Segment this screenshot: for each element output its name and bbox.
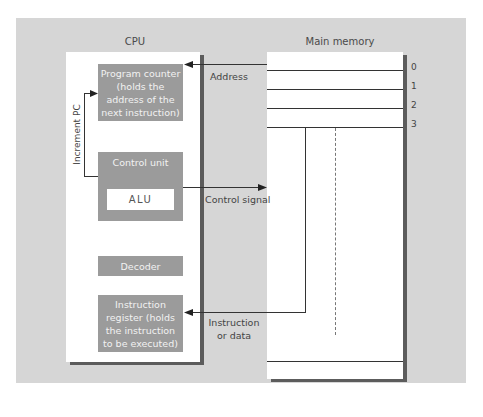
memory-cell-divider [267, 108, 403, 109]
program-counter-line: (holds the [117, 80, 165, 93]
program-counter-box: Program counter (holds the address of th… [98, 64, 183, 121]
memory-cell-divider [267, 89, 403, 90]
alu-label: ALU [129, 194, 153, 205]
address-bus-line [190, 64, 267, 65]
cpu-title: CPU [100, 36, 170, 47]
arrowhead-left-icon [184, 60, 194, 69]
data-bus-line [190, 312, 306, 313]
memory-address-3: 3 [411, 119, 417, 129]
control-unit-box: Control unit [98, 152, 183, 221]
control-unit-label: Control unit [113, 156, 169, 169]
increment-pc-line [84, 93, 85, 176]
memory-cell-divider [267, 70, 403, 71]
instruction-register-line: the instruction [106, 324, 175, 337]
instruction-register-line: register (holds [106, 311, 175, 324]
program-counter-line: next instruction) [101, 106, 179, 119]
instruction-data-line: or data [208, 329, 260, 342]
memory-title: Main memory [290, 36, 390, 47]
program-counter-line: Program counter [101, 67, 181, 80]
instruction-data-label: Instruction or data [208, 316, 260, 342]
control-signal-label: Control signal [205, 193, 270, 206]
arrowhead-left-icon [184, 308, 194, 317]
decoder-box: Decoder [98, 256, 183, 276]
data-bus-line [305, 127, 306, 312]
memory-address-1: 1 [411, 81, 417, 91]
alu-box: ALU [107, 189, 174, 210]
memory-address-2: 2 [411, 100, 417, 110]
memory-address-0: 0 [411, 62, 417, 72]
increment-pc-line [84, 176, 98, 177]
instruction-register-line: to be executed) [103, 337, 178, 350]
program-counter-line: address of the [106, 93, 174, 106]
increment-pc-label: Increment PC [71, 100, 84, 170]
arrowhead-icon [90, 89, 99, 98]
arrowhead-right-icon [258, 183, 268, 192]
control-signal-line [183, 187, 261, 188]
memory-continuation-dashed-line [335, 128, 336, 335]
address-label: Address [210, 70, 248, 83]
memory-cell-divider [267, 361, 403, 362]
instruction-data-line: Instruction [208, 316, 260, 329]
decoder-label: Decoder [121, 260, 161, 273]
instruction-register-line: Instruction [115, 298, 166, 311]
instruction-register-box: Instruction register (holds the instruct… [98, 295, 183, 352]
